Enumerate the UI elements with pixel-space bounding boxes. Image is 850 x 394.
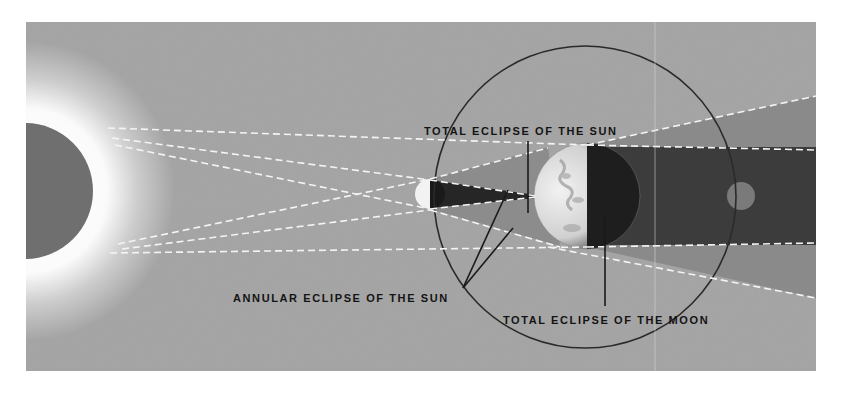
label-total-solar-eclipse: TOTAL ECLIPSE OF THE SUN [424, 125, 618, 137]
eclipse-diagram: TOTAL ECLIPSE OF THE SUN ANNULAR ECLIPSE… [0, 0, 850, 394]
label-total-lunar-eclipse: TOTAL ECLIPSE OF THE MOON [503, 314, 709, 326]
label-annular-solar-eclipse: ANNULAR ECLIPSE OF THE SUN [233, 292, 449, 304]
moon-eclipsed [727, 182, 755, 210]
diagram-panel: TOTAL ECLIPSE OF THE SUN ANNULAR ECLIPSE… [0, 22, 816, 371]
earth [534, 143, 640, 249]
moon-new [415, 179, 445, 209]
